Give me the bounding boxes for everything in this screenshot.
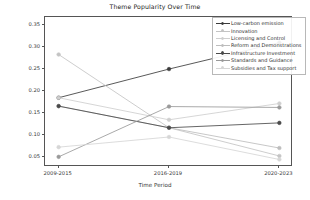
data-point-marker	[57, 155, 61, 159]
series-line	[59, 106, 280, 128]
x-axis-label: Time Period	[0, 182, 310, 188]
legend-item[interactable]: Infrastructure Investment	[215, 50, 303, 57]
legend-item-label: Low-carbon emission	[231, 20, 284, 27]
y-tick-label: 0.30	[18, 43, 40, 49]
legend-marker-icon	[215, 35, 231, 42]
x-tick-label: 2016-2019	[138, 170, 198, 176]
legend-item[interactable]: Low-carbon emission	[215, 20, 303, 27]
data-point-marker	[278, 102, 282, 106]
legend-item[interactable]: Innovation	[215, 27, 303, 34]
series-line	[59, 107, 280, 157]
data-point-marker	[57, 145, 61, 149]
chart-figure: Theme Popularity Over Time Popularity Ti…	[0, 0, 310, 200]
legend-item[interactable]: Licensing and Control	[215, 35, 303, 42]
data-point-marker	[167, 126, 171, 130]
y-tick-label: 0.15	[18, 109, 40, 115]
data-point-marker	[57, 53, 61, 57]
legend-item-label: Standards and Guidance	[231, 57, 293, 64]
legend-item[interactable]: Standards and Guidance	[215, 57, 303, 64]
y-tick-label: 0.25	[18, 65, 40, 71]
chart-title: Theme Popularity Over Time	[0, 3, 310, 10]
y-tick-label: 0.10	[18, 131, 40, 137]
legend-marker-icon	[215, 20, 231, 27]
legend-item-label: Subsidies and Tax support	[231, 65, 296, 72]
data-point-marker	[167, 67, 171, 71]
legend-item[interactable]: Subsidies and Tax support	[215, 64, 303, 71]
legend-marker-icon	[215, 42, 231, 49]
data-point-marker	[278, 121, 282, 125]
data-point-marker	[167, 135, 171, 139]
series-line	[59, 137, 280, 160]
x-tick-label: 2009-2015	[28, 170, 88, 176]
data-point-marker	[278, 146, 282, 150]
legend-marker-icon	[215, 28, 231, 35]
data-point-marker	[167, 118, 171, 122]
data-point-marker	[278, 158, 282, 162]
y-tick-label: 0.05	[18, 153, 40, 159]
series-line	[59, 98, 280, 120]
data-point-marker	[57, 96, 61, 100]
data-point-marker	[278, 106, 282, 110]
data-point-marker	[57, 104, 61, 108]
data-point-marker	[167, 105, 171, 109]
legend-item-label: Licensing and Control	[231, 35, 285, 42]
legend-marker-icon	[215, 57, 231, 64]
legend-item[interactable]: Reform and Demonstrations	[215, 42, 303, 49]
series-group	[57, 105, 281, 159]
legend-item-label: Reform and Demonstrations	[231, 42, 301, 49]
legend-marker-icon	[215, 50, 231, 57]
series-group	[57, 96, 281, 122]
x-tick-label: 2020-2023	[248, 170, 308, 176]
legend-marker-icon	[215, 65, 231, 72]
chart-legend: Low-carbon emissionInnovationLicensing a…	[212, 17, 306, 75]
data-point-marker	[278, 154, 282, 158]
legend-item-label: Infrastructure Investment	[231, 50, 295, 57]
y-tick-label: 0.35	[18, 21, 40, 27]
legend-item-label: Innovation	[231, 28, 257, 35]
y-tick-label: 0.20	[18, 87, 40, 93]
